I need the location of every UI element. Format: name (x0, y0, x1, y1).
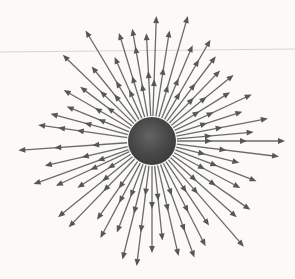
field-diagram-svg (0, 0, 295, 279)
physics-figure (0, 0, 295, 279)
charged-sphere (128, 117, 176, 165)
